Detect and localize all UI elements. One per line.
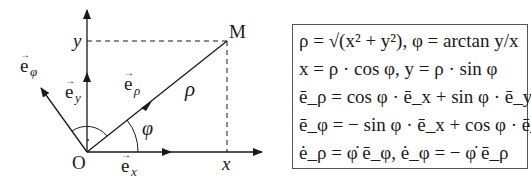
right-angle-dot <box>87 139 89 141</box>
svg-text:ρ: ρ <box>133 83 140 98</box>
e-x-label: e → x <box>121 149 137 179</box>
svg-text:→: → <box>65 75 75 86</box>
e-rho-label: e → ρ <box>124 67 140 98</box>
formula-cartesian-from-polar: x = ρ · cos φ, y = ρ · sin φ <box>299 55 527 83</box>
svg-text:→: → <box>20 49 30 60</box>
origin-label: O <box>72 152 86 173</box>
formula-box: ρ = √(x² + y²), φ = arctan y/x x = ρ · c… <box>292 24 528 169</box>
e-rho-arrowhead-icon <box>141 101 152 111</box>
angle-phi-arc <box>127 120 138 152</box>
svg-text:φ: φ <box>30 64 37 79</box>
formula-e-phi: ē_φ = − sin φ · ē_x + cos φ · ē_y <box>299 111 527 139</box>
svg-text:→: → <box>121 149 131 160</box>
e-y-arrowhead-icon <box>83 72 91 82</box>
e-y-label: e → y <box>65 75 81 105</box>
svg-text:x: x <box>130 164 137 179</box>
formula-e-rho: ē_ρ = cos φ · ē_x + sin φ · ē_y, <box>299 83 527 111</box>
point-m-label: M <box>229 21 246 42</box>
svg-text:y: y <box>73 90 81 105</box>
e-x-arrowhead-icon <box>162 148 172 156</box>
x-tick-label: x <box>221 153 231 174</box>
angle-label: φ <box>142 117 153 140</box>
radius-label: ρ <box>184 77 195 101</box>
svg-text:→: → <box>124 67 134 78</box>
formula-polar-from-cartesian: ρ = √(x² + y²), φ = arctan y/x <box>299 27 527 55</box>
right-angle-arc <box>72 126 107 136</box>
radius-line <box>87 41 227 152</box>
polar-coordinates-diagram: O M x y ρ φ e → x e → y e → ρ e → φ <box>0 0 290 186</box>
formula-derivatives: ė_ρ = φ̇ ē_φ, ė_φ = − φ̇ ē_ρ <box>299 139 527 167</box>
y-tick-label: y <box>71 30 82 51</box>
e-phi-label: e → φ <box>20 49 37 79</box>
